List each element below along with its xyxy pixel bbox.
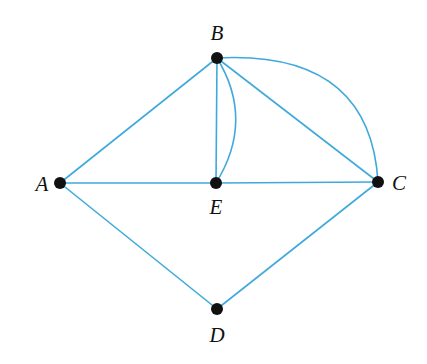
edge-d-c — [217, 182, 378, 309]
label-d: D — [208, 323, 224, 347]
edge-a-d — [60, 183, 217, 309]
node-e — [210, 177, 222, 189]
node-c — [372, 176, 384, 188]
label-e: E — [209, 195, 223, 219]
label-b: B — [211, 21, 224, 45]
edge-a-b — [60, 58, 217, 183]
label-a: A — [34, 172, 49, 196]
graph-diagram: A B C D E — [0, 0, 427, 364]
edge-b-e-straight — [216, 58, 217, 183]
edge-b-c-straight — [217, 58, 378, 182]
node-d — [211, 303, 223, 315]
edge-b-e-curved — [216, 58, 236, 183]
label-c: C — [392, 171, 407, 195]
node-b — [211, 52, 223, 64]
node-a — [54, 177, 66, 189]
edge-e-c — [216, 182, 378, 183]
